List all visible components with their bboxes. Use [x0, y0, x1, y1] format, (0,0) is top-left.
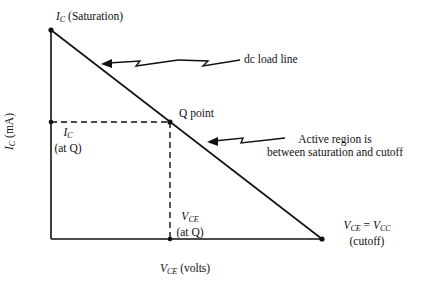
cutoff-sub1: CE	[350, 224, 360, 233]
q-point-label: Q point	[179, 107, 214, 120]
cutoff-eq: =	[361, 219, 373, 231]
ic-at-q-text: (at Q)	[52, 142, 84, 155]
active-region-line-1: Active region is	[260, 133, 410, 146]
cutoff-point	[319, 236, 324, 241]
ic-at-q-sub: C	[67, 131, 72, 140]
dc-load-line-label: dc load line	[244, 53, 298, 66]
saturation-label: IC (Saturation)	[56, 10, 123, 26]
cutoff-sub2: CC	[380, 224, 391, 233]
y-axis-text: (mA)	[3, 113, 15, 141]
vce-at-q-label: VCE (at Q)	[174, 210, 206, 239]
vce-at-q-sub: CE	[188, 215, 198, 224]
y-axis-var: I	[3, 146, 15, 150]
cutoff-var2: V	[373, 219, 380, 231]
ic-at-q-point	[49, 120, 54, 125]
saturation-sub: C	[60, 15, 65, 24]
x-axis-text: (volts)	[177, 262, 210, 274]
vce-at-q-point	[168, 237, 173, 242]
x-axis-sub: CE	[167, 267, 177, 276]
saturation-text: (Saturation)	[68, 10, 123, 22]
active-region-line-2: between saturation and cutoff	[260, 146, 410, 159]
active-region-label: Active region is between saturation and …	[260, 133, 410, 159]
cutoff-text: (cutoff)	[328, 235, 406, 248]
x-axis-var: V	[160, 262, 167, 274]
saturation-point	[48, 27, 53, 32]
y-axis-sub: C	[8, 141, 17, 146]
y-axis-label: IC (mA)	[3, 113, 19, 150]
ic-at-q-label: IC (at Q)	[52, 126, 84, 155]
vce-at-q-text: (at Q)	[174, 226, 206, 239]
cutoff-label: VCE = VCC (cutoff)	[328, 219, 406, 248]
q-point	[167, 119, 172, 124]
load-line-arrow-icon	[101, 59, 240, 68]
x-axis-label: VCE (volts)	[160, 262, 210, 278]
